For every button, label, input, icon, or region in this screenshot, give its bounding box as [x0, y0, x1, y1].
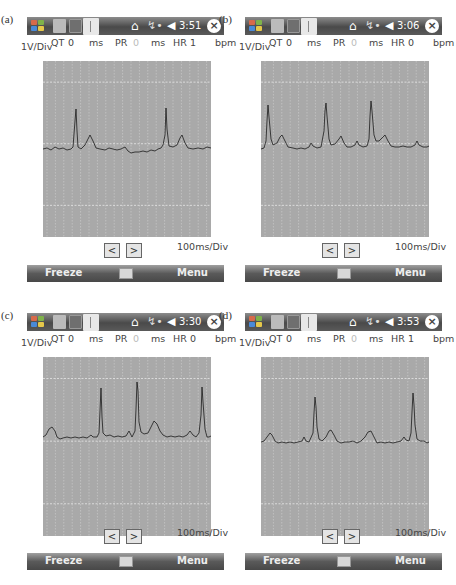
- softkey-bar: Freeze Menu: [245, 265, 442, 282]
- scroll-right-button[interactable]: >: [344, 243, 360, 258]
- home-icon[interactable]: ⌂: [349, 19, 357, 33]
- windows-start-icon[interactable]: [248, 315, 264, 329]
- freeze-button[interactable]: Freeze: [263, 267, 300, 278]
- voltage-scale-label: 1V/Div: [21, 337, 52, 348]
- scroll-right-button[interactable]: >: [126, 243, 142, 258]
- close-icon[interactable]: ×: [425, 315, 439, 329]
- ecg-chart: [43, 61, 211, 237]
- measurement-readout: QT 0 ms PR 0 ms HR 0 bpm: [27, 333, 239, 355]
- voltage-scale-label: 1V/Div: [239, 41, 270, 52]
- keyboard-icon[interactable]: [337, 556, 351, 567]
- ecg-chart: [43, 357, 211, 536]
- hr-label: HR: [391, 333, 405, 344]
- hr-label: HR: [391, 37, 405, 48]
- home-icon[interactable]: ⌂: [131, 315, 139, 329]
- clock-time[interactable]: 3:53: [397, 316, 419, 328]
- taskbar: ⌂ ↯• ◀ 3:30 ×: [27, 313, 224, 331]
- hr-unit: bpm: [433, 333, 454, 344]
- scroll-left-button[interactable]: <: [104, 243, 120, 258]
- pr-value: 0: [133, 333, 139, 344]
- keyboard-icon[interactable]: [119, 556, 133, 567]
- softkey-bar: Freeze Menu: [27, 553, 224, 570]
- volume-icon[interactable]: ◀: [385, 315, 393, 329]
- signal-icon[interactable]: ↯•: [147, 19, 163, 33]
- softkey-bar: Freeze Menu: [27, 265, 224, 282]
- menu-button[interactable]: Menu: [395, 267, 426, 278]
- keyboard-icon[interactable]: [337, 268, 351, 279]
- hr-unit: bpm: [215, 37, 236, 48]
- qt-label: QT: [51, 333, 64, 344]
- windows-start-icon[interactable]: [248, 19, 264, 33]
- app-icon[interactable]: [53, 19, 66, 33]
- qt-value: 0: [68, 37, 74, 48]
- clock-time[interactable]: 3:06: [397, 20, 419, 32]
- clock-time[interactable]: 3:51: [179, 20, 201, 32]
- ecg-app-icon[interactable]: [83, 314, 99, 331]
- measurement-readout: QT 0 ms PR 0 ms HR 1 bpm: [245, 333, 456, 355]
- app-icon[interactable]: [271, 315, 284, 329]
- hr-value: 0: [408, 37, 414, 48]
- menu-button[interactable]: Menu: [395, 555, 426, 566]
- ecg-screen-panel: (c) ⌂ ↯• ◀ 3:30 × QT 0 ms PR 0 ms HR 0 b…: [27, 313, 227, 585]
- ecg-grid-and-trace: [261, 357, 429, 536]
- taskbar: ⌂ ↯• ◀ 3:51 ×: [27, 17, 224, 35]
- ecg-trace: [43, 108, 211, 153]
- qt-value: 0: [68, 333, 74, 344]
- clock-time[interactable]: 3:30: [179, 316, 201, 328]
- keyboard-icon[interactable]: [119, 268, 133, 279]
- ecg-app-icon[interactable]: [83, 18, 99, 35]
- volume-icon[interactable]: ◀: [167, 19, 175, 33]
- close-icon[interactable]: ×: [425, 19, 439, 33]
- camera-app-icon[interactable]: [287, 19, 300, 33]
- menu-button[interactable]: Menu: [177, 267, 208, 278]
- ecg-grid-and-trace: [43, 357, 211, 536]
- hr-unit: bpm: [215, 333, 236, 344]
- pr-value: 0: [351, 37, 357, 48]
- hr-value: 1: [190, 37, 196, 48]
- app-icon[interactable]: [271, 19, 284, 33]
- panel-label: (a): [1, 13, 13, 25]
- qt-value: 0: [286, 37, 292, 48]
- signal-icon[interactable]: ↯•: [365, 19, 381, 33]
- windows-start-icon[interactable]: [30, 315, 46, 329]
- taskbar: ⌂ ↯• ◀ 3:06 ×: [245, 17, 442, 35]
- voltage-scale-label: 1V/Div: [21, 41, 52, 52]
- volume-icon[interactable]: ◀: [385, 19, 393, 33]
- camera-app-icon[interactable]: [69, 315, 82, 329]
- pr-unit: ms: [151, 333, 165, 344]
- scroll-right-button[interactable]: >: [126, 529, 142, 544]
- qt-unit: ms: [89, 333, 103, 344]
- signal-icon[interactable]: ↯•: [147, 315, 163, 329]
- taskbar: ⌂ ↯• ◀ 3:53 ×: [245, 313, 442, 331]
- camera-app-icon[interactable]: [287, 315, 300, 329]
- freeze-button[interactable]: Freeze: [45, 267, 82, 278]
- qt-unit: ms: [89, 37, 103, 48]
- freeze-button[interactable]: Freeze: [263, 555, 300, 566]
- hr-unit: bpm: [433, 37, 454, 48]
- ecg-app-icon[interactable]: [301, 314, 317, 331]
- home-icon[interactable]: ⌂: [131, 19, 139, 33]
- scroll-left-button[interactable]: <: [322, 243, 338, 258]
- volume-icon[interactable]: ◀: [167, 315, 175, 329]
- app-icon[interactable]: [53, 315, 66, 329]
- panel-label: (c): [1, 309, 13, 321]
- ecg-screen-panel: (d) ⌂ ↯• ◀ 3:53 × QT 0 ms PR 0 ms HR 1 b…: [245, 313, 445, 585]
- windows-start-icon[interactable]: [30, 19, 46, 33]
- scroll-right-button[interactable]: >: [344, 529, 360, 544]
- signal-icon[interactable]: ↯•: [365, 315, 381, 329]
- freeze-button[interactable]: Freeze: [45, 555, 82, 566]
- ecg-trace: [261, 101, 429, 149]
- scroll-left-button[interactable]: <: [322, 529, 338, 544]
- qt-label: QT: [269, 37, 282, 48]
- menu-button[interactable]: Menu: [177, 555, 208, 566]
- ecg-grid-and-trace: [43, 61, 211, 237]
- scroll-left-button[interactable]: <: [104, 529, 120, 544]
- hr-label: HR: [173, 333, 187, 344]
- qt-label: QT: [269, 333, 282, 344]
- home-icon[interactable]: ⌂: [349, 315, 357, 329]
- pr-label: PR: [115, 37, 127, 48]
- pr-unit: ms: [369, 37, 383, 48]
- qt-unit: ms: [307, 37, 321, 48]
- ecg-app-icon[interactable]: [301, 18, 317, 35]
- camera-app-icon[interactable]: [69, 19, 82, 33]
